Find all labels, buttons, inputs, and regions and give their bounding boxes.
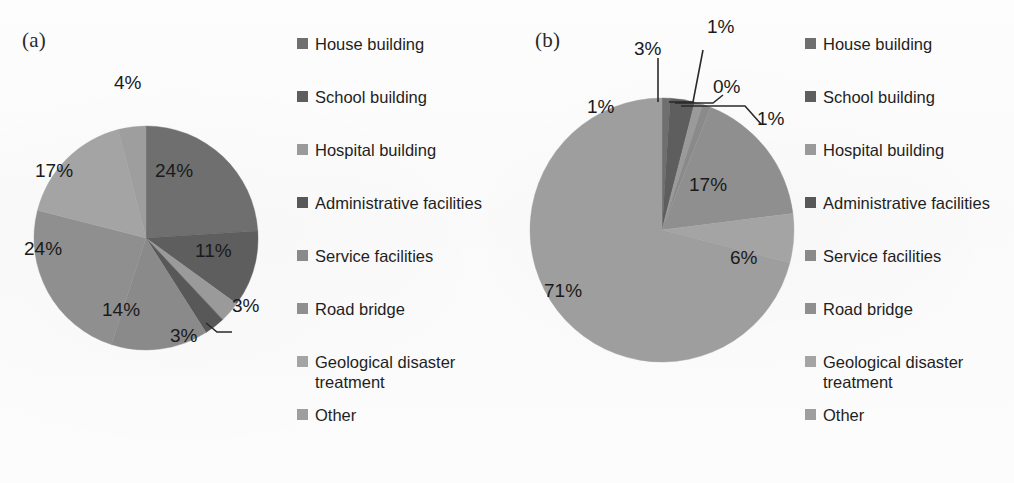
pie-a-label-geological: 17%	[35, 160, 73, 182]
panel-b: (b) 3% 1% 0% 1% 1% 17% 6% 71% House buil…	[507, 0, 1014, 483]
panel-a: (a) 4% 17% 24% 14% 3% 3% 11% 24% House b…	[0, 0, 507, 483]
figure-page: (a) 4% 17% 24% 14% 3% 3% 11% 24% House b…	[0, 0, 1014, 483]
legend-b-label-hospital-building: Hospital building	[823, 140, 944, 160]
pie-a-label-school: 11%	[195, 240, 232, 262]
pie-chart-b: 3% 1% 0% 1% 1% 17% 6% 71%	[517, 40, 817, 420]
legend-a-label-geological-disaster-treatment: Geological disaster treatment	[315, 352, 502, 392]
panel-label-a: (a)	[22, 28, 46, 53]
pie-a-label-service: 14%	[102, 299, 140, 321]
legend-a-label-administrative-facilities: Administrative facilities	[315, 193, 482, 213]
legend-a-item-school-building[interactable]: School building	[297, 87, 502, 107]
legend-swatch-hospital-building-icon	[297, 144, 308, 155]
pie-b-label-school: 3%	[634, 38, 661, 60]
pie-b-label-geological: 6%	[730, 247, 757, 269]
legend-swatch-school-building-icon	[297, 91, 308, 102]
legend-b-item-road-bridge[interactable]: Road bridge	[805, 299, 1010, 319]
legend-b-label-other: Other	[823, 405, 864, 425]
legend-swatch-other-icon	[297, 409, 308, 420]
legend-b-item-hospital-building[interactable]: Hospital building	[805, 140, 1010, 160]
legend-a-item-other[interactable]: Other	[297, 405, 502, 425]
legend-a-item-hospital-building[interactable]: Hospital building	[297, 140, 502, 160]
legend-a-label-house-building: House building	[315, 34, 424, 54]
pie-b-label-administrative: 0%	[713, 76, 740, 98]
legend-a-item-administrative-facilities[interactable]: Administrative facilities	[297, 193, 502, 213]
legend-swatch-administrative-facilities-icon	[805, 197, 816, 208]
leader-line	[669, 50, 703, 102]
pie-a-label-other: 4%	[114, 72, 141, 94]
legend-swatch-house-building-icon	[805, 38, 816, 49]
legend-b-item-administrative-facilities[interactable]: Administrative facilities	[805, 193, 1010, 213]
legend-swatch-other-icon	[805, 409, 816, 420]
legend-a-label-road-bridge: Road bridge	[315, 299, 405, 319]
legend-b-label-school-building: School building	[823, 87, 935, 107]
pie-a-label-hospital: 3%	[232, 295, 259, 317]
pie-b-label-roadbridge: 17%	[689, 174, 727, 196]
legend-a-item-service-facilities[interactable]: Service facilities	[297, 246, 502, 266]
legend-swatch-service-facilities-icon	[805, 250, 816, 261]
legend-a-label-service-facilities: Service facilities	[315, 246, 433, 266]
legend-b-item-geological-disaster-treatment[interactable]: Geological disaster treatment	[805, 352, 1010, 392]
legend-b-label-service-facilities: Service facilities	[823, 246, 941, 266]
pie-slice	[146, 126, 258, 238]
legend-b-item-school-building[interactable]: School building	[805, 87, 1010, 107]
legend-swatch-road-bridge-icon	[297, 303, 308, 314]
legend-swatch-geological-disaster-treatment-icon	[297, 356, 308, 367]
legend-b-label-administrative-facilities: Administrative facilities	[823, 193, 990, 213]
pie-a-label-house: 24%	[155, 160, 193, 182]
legend-swatch-school-building-icon	[805, 91, 816, 102]
legend-swatch-road-bridge-icon	[805, 303, 816, 314]
pie-b-svg	[517, 40, 817, 420]
pie-b-label-service: 1%	[757, 108, 784, 130]
legend-a-item-road-bridge[interactable]: Road bridge	[297, 299, 502, 319]
legend-a-item-geological-disaster-treatment[interactable]: Geological disaster treatment	[297, 352, 502, 392]
pie-b-label-other: 71%	[544, 280, 582, 302]
pie-a-label-administrative: 3%	[170, 325, 197, 347]
pie-chart-a: 4% 17% 24% 14% 3% 3% 11% 24%	[10, 80, 300, 420]
legend-b-label-road-bridge: Road bridge	[823, 299, 913, 319]
legend-swatch-hospital-building-icon	[805, 144, 816, 155]
legend-b-item-house-building[interactable]: House building	[805, 34, 1010, 54]
legend-a-label-other: Other	[315, 405, 356, 425]
legend-swatch-house-building-icon	[297, 38, 308, 49]
legend-b-item-service-facilities[interactable]: Service facilities	[805, 246, 1010, 266]
legend-b-label-house-building: House building	[823, 34, 932, 54]
legend-swatch-geological-disaster-treatment-icon	[805, 356, 816, 367]
pie-a-label-roadbridge: 24%	[24, 238, 62, 260]
legend-a-item-house-building[interactable]: House building	[297, 34, 502, 54]
legend-b-label-geological-disaster-treatment: Geological disaster treatment	[823, 352, 1010, 392]
legend-swatch-service-facilities-icon	[297, 250, 308, 261]
legend-swatch-administrative-facilities-icon	[297, 197, 308, 208]
legend-a-label-school-building: School building	[315, 87, 427, 107]
pie-b-label-hospital: 1%	[707, 16, 734, 38]
legend-a-label-hospital-building: Hospital building	[315, 140, 436, 160]
legend-b-item-other[interactable]: Other	[805, 405, 1010, 425]
pie-b-label-house: 1%	[587, 96, 614, 118]
